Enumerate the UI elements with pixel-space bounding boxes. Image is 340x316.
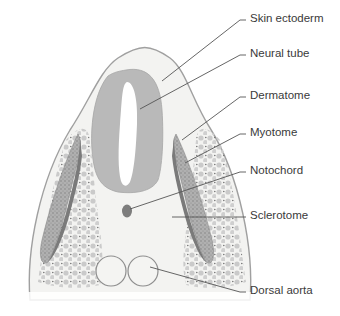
label-dermatome: Dermatome xyxy=(250,90,310,102)
dorsal-aorta-right xyxy=(128,256,158,286)
dorsal-aorta-left xyxy=(96,256,126,286)
notochord-shape xyxy=(122,205,132,218)
label-dorsal-aorta: Dorsal aorta xyxy=(250,285,313,297)
label-neural-tube: Neural tube xyxy=(250,48,309,60)
label-skin-ectoderm: Skin ectoderm xyxy=(250,13,324,25)
label-sclerotome: Sclerotome xyxy=(250,210,308,222)
label-notochord: Notochord xyxy=(250,165,303,177)
label-myotome: Myotome xyxy=(250,127,297,139)
